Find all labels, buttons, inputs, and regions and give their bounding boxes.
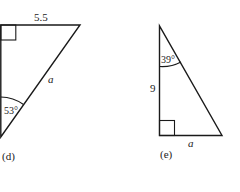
angle-arc-d xyxy=(1,97,24,105)
right-angle-marker-e xyxy=(160,121,175,136)
triangle-d-outline xyxy=(1,25,80,137)
triangle-e: 9 39° a (e) xyxy=(150,26,222,161)
caption-d: (d) xyxy=(2,150,15,163)
angle-label-e: 39° xyxy=(161,54,175,65)
side-top-label-d: 5.5 xyxy=(34,11,48,23)
side-left-label-e: 9 xyxy=(150,82,156,94)
angle-label-d: 53° xyxy=(4,105,18,116)
caption-e: (e) xyxy=(160,148,173,161)
triangle-d: 5.5 a 53° (d) xyxy=(1,11,80,163)
triangle-diagrams: 5.5 a 53° (d) 9 39° a (e) xyxy=(0,0,240,192)
right-angle-marker-d xyxy=(1,25,16,40)
side-bottom-label-e: a xyxy=(188,137,194,149)
triangle-e-outline xyxy=(160,26,223,136)
hypotenuse-label-d: a xyxy=(48,73,54,85)
